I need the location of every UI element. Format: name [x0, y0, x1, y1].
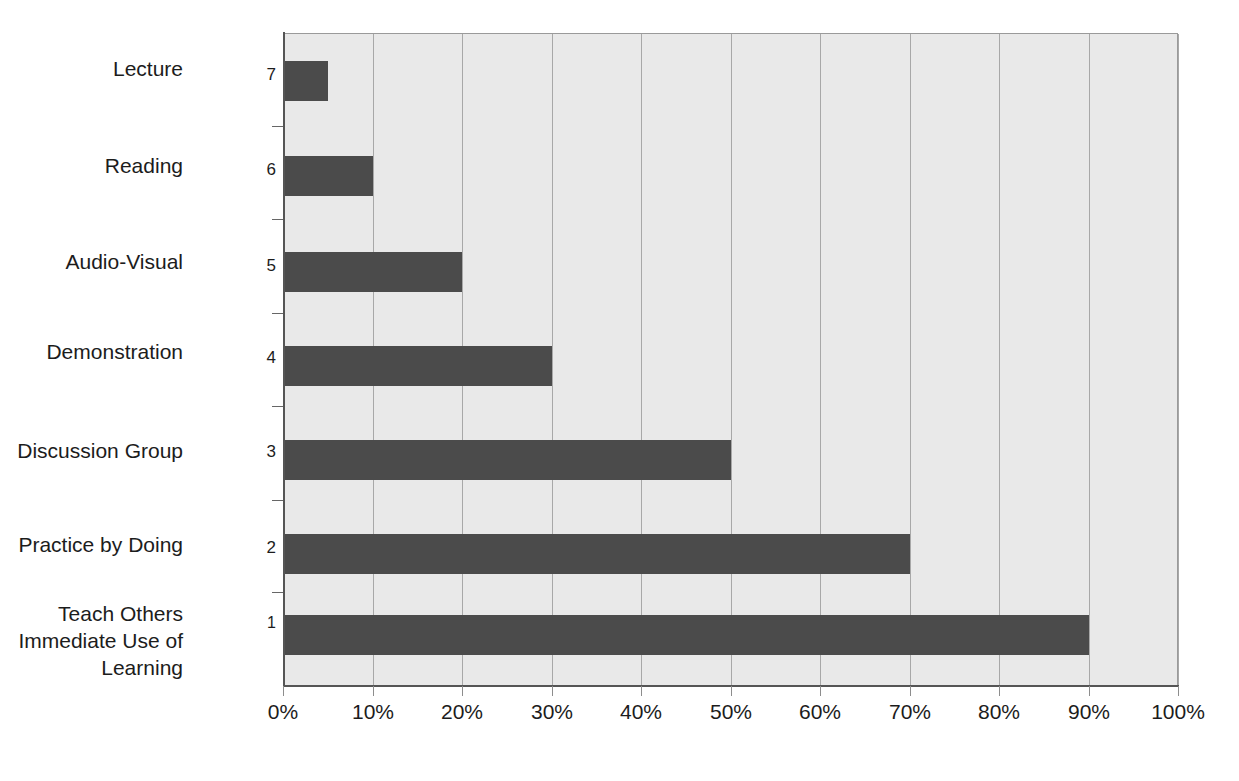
- x-tick-label: 40%: [596, 700, 686, 724]
- y-category-number: 4: [250, 348, 276, 368]
- bar-chart: Lecture7Reading6Audio-Visual5Demonstrati…: [0, 0, 1239, 781]
- bar: [283, 252, 462, 292]
- bar: [283, 61, 328, 101]
- x-tick-10%: [373, 686, 374, 696]
- y-category-number: 7: [250, 65, 276, 85]
- x-tick-label: 60%: [775, 700, 865, 724]
- y-category-label: Audio-Visual: [0, 248, 183, 275]
- x-tick-label: 30%: [507, 700, 597, 724]
- x-tick-0%: [283, 686, 284, 696]
- y-axis-line: [283, 32, 285, 687]
- x-tick-label: 10%: [328, 700, 418, 724]
- y-category-label: Practice by Doing: [0, 531, 183, 558]
- x-tick-100%: [1178, 686, 1179, 696]
- y-category-number: 2: [250, 538, 276, 558]
- x-tick-40%: [641, 686, 642, 696]
- x-tick-20%: [462, 686, 463, 696]
- x-tick-label: 70%: [865, 700, 955, 724]
- y-category-label: Reading: [0, 152, 183, 179]
- plot-area: [283, 33, 1178, 685]
- bar: [283, 156, 373, 196]
- y-tick-5: [272, 592, 283, 593]
- y-category-number: 1: [250, 614, 276, 632]
- x-tick-90%: [1089, 686, 1090, 696]
- y-tick-0: [272, 126, 283, 127]
- bar: [283, 615, 1089, 655]
- x-tick-70%: [910, 686, 911, 696]
- x-tick-label: 90%: [1044, 700, 1134, 724]
- gridline-100%: [1178, 34, 1179, 685]
- y-category-number: 5: [250, 256, 276, 276]
- y-tick-2: [272, 313, 283, 314]
- x-tick-80%: [999, 686, 1000, 696]
- x-tick-label: 80%: [954, 700, 1044, 724]
- x-tick-label: 100%: [1133, 700, 1223, 724]
- x-tick-50%: [731, 686, 732, 696]
- y-tick-3: [272, 406, 283, 407]
- y-category-label: Demonstration: [0, 338, 183, 365]
- x-tick-label: 0%: [238, 700, 328, 724]
- x-tick-30%: [552, 686, 553, 696]
- bar: [283, 440, 731, 480]
- x-tick-label: 20%: [417, 700, 507, 724]
- bar: [283, 534, 910, 574]
- y-category-label: Discussion Group: [0, 437, 183, 464]
- bars-layer: [283, 34, 1177, 685]
- x-tick-label: 50%: [686, 700, 776, 724]
- y-category-number: 6: [250, 160, 276, 180]
- y-tick-1: [272, 219, 283, 220]
- y-tick-4: [272, 500, 283, 501]
- y-category-label: Lecture: [0, 55, 183, 82]
- y-category-number: 3: [250, 442, 276, 462]
- x-tick-60%: [820, 686, 821, 696]
- bar: [283, 346, 552, 386]
- y-category-label: Teach Others Immediate Use of Learning: [0, 600, 183, 681]
